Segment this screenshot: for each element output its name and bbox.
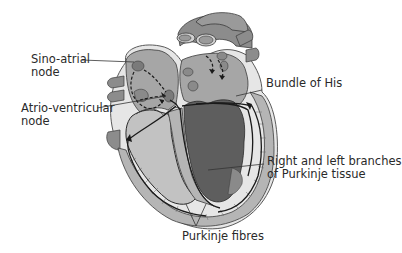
label-his-text: Bundle of His xyxy=(266,76,342,90)
label-sa-line2: node xyxy=(31,66,90,79)
label-bundle-of-his: Bundle of His xyxy=(266,77,342,90)
label-branches-line2: of Purkinje tissue xyxy=(267,168,402,181)
sa-node xyxy=(132,61,144,71)
label-fibres-text: Purkinje fibres xyxy=(182,229,264,243)
label-purkinje-branches: Right and left branches of Purkinje tiss… xyxy=(267,155,402,181)
label-av-line2: node xyxy=(21,115,114,128)
label-purkinje-fibres: Purkinje fibres xyxy=(182,230,264,243)
label-atrio-ventricular-node: Atrio-ventricular node xyxy=(21,102,114,128)
left-atrium xyxy=(180,53,248,106)
label-sino-atrial-node: Sino-atrial node xyxy=(31,53,90,79)
right-atrium xyxy=(126,50,178,112)
